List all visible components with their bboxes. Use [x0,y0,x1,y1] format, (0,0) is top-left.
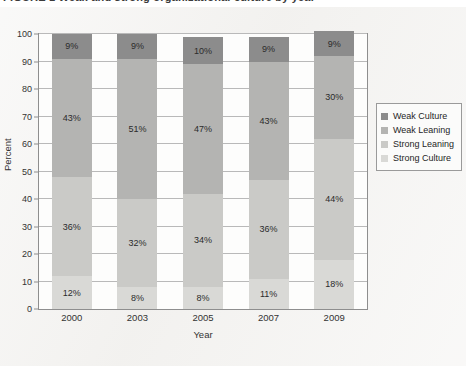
y-axis-tick-mark [34,199,38,200]
legend-item-label: Strong Culture [393,153,451,163]
bar-segment-label: 36% [63,222,81,232]
bar-segment-label: 9% [328,39,341,49]
x-axis: 20002003200520072009 [38,312,368,328]
bar-segment: 34% [183,194,223,288]
y-axis-tick-label: 40 [22,194,32,204]
y-axis-tick-mark [34,144,38,145]
bar-segment: 8% [183,287,223,309]
bar-segment: 30% [314,56,354,139]
bar-segment: 9% [52,34,92,59]
stacked-bar: 10%47%34%8% [183,37,223,309]
y-axis-tick-label: 50 [22,167,32,177]
x-axis-tick-label: 2005 [192,312,213,323]
bar-segment-label: 12% [63,288,81,298]
y-axis-tick-mark [34,89,38,90]
bar-segment: 12% [52,276,92,309]
y-axis-tick-mark [34,309,38,310]
x-axis-tick-label: 2007 [258,312,279,323]
legend-item-label: Weak Culture [393,111,447,121]
y-axis-tick-label: 20 [22,249,32,259]
legend-swatch-icon [381,127,388,134]
bar-segment-label: 9% [65,41,78,51]
y-axis-tick-label: 0 [27,304,32,314]
y-axis-tick-label: 90 [22,57,32,67]
legend-item: Weak Culture [381,109,456,123]
figure-caption-strip: FIGURE 1 Weak and strong organizational … [0,0,466,7]
y-axis-tick-label: 80 [22,84,32,94]
legend-swatch-icon [381,113,388,120]
bar-segment: 9% [314,31,354,56]
x-axis-tick-label: 2003 [127,312,148,323]
stacked-bar: 9%51%32%8% [117,34,157,309]
bar-segment: 10% [183,37,223,65]
bar-segment-label: 34% [194,235,212,245]
bar-segment: 36% [249,180,289,279]
bar-segment-label: 36% [260,224,278,234]
legend-item-label: Weak Leaning [393,125,450,135]
y-axis-tick-mark [34,171,38,172]
bar-segment-label: 18% [325,279,343,289]
y-axis-tick-label: 60 [22,139,32,149]
bar-segment: 47% [183,64,223,193]
bar-segment-label: 30% [325,92,343,102]
legend-item: Weak Leaning [381,123,456,137]
y-axis-title: Percent [2,138,13,171]
bar-segment: 9% [117,34,157,59]
bar-segment-label: 8% [196,293,209,303]
legend-item: Strong Culture [381,151,456,165]
legend-item: Strong Leaning [381,137,456,151]
y-axis-tick-label: 100 [17,29,32,39]
bar-segment-label: 47% [194,124,212,134]
y-axis-tick-label: 10 [22,277,32,287]
bar-segment-label: 11% [260,289,277,299]
bar-segment-label: 8% [131,293,144,303]
stacked-bar: 9%30%44%18% [314,31,354,309]
bar-segment-label: 43% [63,113,81,123]
figure-panel: 9%43%36%12%9%51%32%8%10%47%34%8%9%43%36%… [0,7,466,366]
x-axis-title: Year [38,329,368,340]
y-axis-tick-label: 30 [22,222,32,232]
figure-caption: FIGURE 1 Weak and strong organizational … [3,0,315,3]
y-axis-tick-mark [34,34,38,35]
bar-segment-label: 43% [260,116,278,126]
bar-segment: 18% [314,260,354,310]
bar-segment: 43% [52,59,92,177]
bar-segment-label: 9% [131,41,144,51]
y-axis-tick-mark [34,254,38,255]
figure-container: FIGURE 1 Weak and strong organizational … [0,0,466,366]
stacked-bar: 9%43%36%11% [249,37,289,309]
bar-segment: 32% [117,199,157,287]
stacked-bar: 9%43%36%12% [52,34,92,309]
bar-segment: 43% [249,62,289,180]
legend-swatch-icon [381,155,388,162]
legend: Weak CultureWeak LeaningStrong LeaningSt… [376,103,462,171]
x-axis-tick-label: 2000 [61,312,82,323]
bar-segment-label: 44% [325,194,343,204]
bar-segment: 51% [117,59,157,199]
bar-segment: 36% [52,177,92,276]
y-axis-tick-mark [34,281,38,282]
bar-segment: 9% [249,37,289,62]
bar-segment-label: 9% [262,44,275,54]
y-axis-tick-label: 70 [22,112,32,122]
bar-segment-label: 10% [194,46,212,56]
y-axis: 0102030405060708090100 [0,33,38,310]
x-axis-tick-label: 2009 [324,312,345,323]
bar-segment-label: 51% [128,124,146,134]
bar-segment: 44% [314,139,354,260]
bar-segment: 8% [117,287,157,309]
y-axis-tick-mark [34,61,38,62]
y-axis-tick-mark [34,116,38,117]
y-axis-tick-mark [34,226,38,227]
bar-segment-label: 32% [128,238,146,248]
plot-area: 9%43%36%12%9%51%32%8%10%47%34%8%9%43%36%… [38,33,368,310]
legend-item-label: Strong Leaning [393,139,454,149]
legend-swatch-icon [381,141,388,148]
bar-segment: 11% [249,279,289,309]
